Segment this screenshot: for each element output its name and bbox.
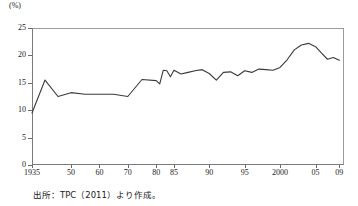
y-axis-tick-label: 0	[4, 161, 26, 169]
x-axis-tick-mark	[174, 165, 175, 168]
source-note: 出所：TPC（2011）より作成。	[33, 188, 161, 200]
x-axis-tick-label: 95	[241, 168, 249, 177]
x-axis-tick-label: 50	[67, 168, 75, 177]
x-axis-tick-mark	[316, 165, 317, 168]
x-axis-tick-label: 1935	[24, 168, 40, 177]
x-axis-tick-mark	[71, 165, 72, 168]
x-axis-tick-label: 85	[170, 168, 178, 177]
x-axis-tick-mark	[209, 165, 210, 168]
x-axis-tick-label: 09	[335, 168, 343, 177]
y-axis-tick-label: 15	[4, 79, 26, 87]
x-axis-tick-label: 2000	[272, 168, 288, 177]
x-axis-tick-label: 80	[152, 168, 160, 177]
y-axis-unit-label: (%)	[9, 1, 21, 10]
x-axis-tick-mark	[32, 165, 33, 168]
x-axis-tick-label: 05	[312, 168, 320, 177]
x-axis-tick-mark	[99, 165, 100, 168]
data-series-line	[32, 28, 344, 165]
x-axis-tick-mark	[245, 165, 246, 168]
x-axis-tick-mark	[128, 165, 129, 168]
x-axis-tick-mark	[156, 165, 157, 168]
y-axis-tick-label: 25	[4, 24, 26, 32]
x-axis-tick-label: 70	[124, 168, 132, 177]
x-axis-tick-mark	[339, 165, 340, 168]
y-axis-tick-label: 10	[4, 106, 26, 114]
y-axis-tick-label: 20	[4, 51, 26, 59]
x-axis-tick-label: 60	[95, 168, 103, 177]
x-axis-tick-label: 90	[205, 168, 213, 177]
figure-container: (%) 0510152025 1935506070808590952000050…	[0, 0, 358, 206]
x-axis-tick-mark	[280, 165, 281, 168]
y-axis-tick-label: 5	[4, 134, 26, 142]
